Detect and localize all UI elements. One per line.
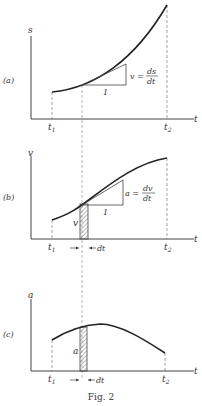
- slope-num: dv: [143, 184, 153, 193]
- x-axis-label: t: [194, 114, 198, 124]
- figure-caption: Fig. 2: [88, 392, 114, 402]
- slope-triangle: [82, 180, 123, 205]
- dt-arrows: [70, 379, 95, 382]
- run-label: 1: [103, 208, 108, 217]
- strip-label: a: [73, 346, 78, 356]
- slope-triangle: [82, 64, 126, 85]
- slope-den: dt: [147, 77, 156, 86]
- hatched-strip: [80, 204, 88, 239]
- panel-label: (b): [3, 193, 14, 202]
- panel-label: (a): [3, 76, 14, 85]
- run-label: 1: [103, 88, 108, 97]
- panel-a: s t (a) 1 v = ds dt t1 t2: [3, 5, 198, 133]
- y-axis-label: a: [28, 290, 33, 300]
- y-axis-label: s: [28, 25, 33, 35]
- x-axis-label: t: [194, 234, 198, 244]
- dt-label: dt: [96, 376, 105, 385]
- t2-label: t2: [164, 122, 172, 133]
- panel-c: a t (c) a t1 t2 dt: [3, 290, 198, 385]
- slope-label: a =: [125, 189, 139, 198]
- slope-den: dt: [143, 194, 152, 203]
- t1-label: t1: [48, 242, 55, 253]
- a-curve: [52, 324, 165, 353]
- panel-b: v t (b) 1 a = dv dt v t1 t2 dt: [3, 148, 198, 253]
- panel-label: (c): [3, 330, 14, 339]
- hatched-strip: [80, 327, 87, 371]
- t1-label: t1: [48, 374, 55, 385]
- dt-arrows: [70, 247, 96, 250]
- slope-label: v =: [130, 72, 144, 81]
- slope-num: ds: [147, 67, 156, 76]
- y-axis-label: v: [28, 148, 33, 158]
- kinematics-figure: s t (a) 1 v = ds dt t1 t2 v t (b) 1 a = …: [0, 0, 202, 406]
- dt-label: dt: [97, 244, 106, 253]
- t2-label: t2: [162, 374, 170, 385]
- x-axis-label: t: [194, 366, 198, 376]
- strip-label: v: [73, 218, 78, 228]
- t2-label: t2: [164, 242, 172, 253]
- t1-label: t1: [48, 122, 55, 133]
